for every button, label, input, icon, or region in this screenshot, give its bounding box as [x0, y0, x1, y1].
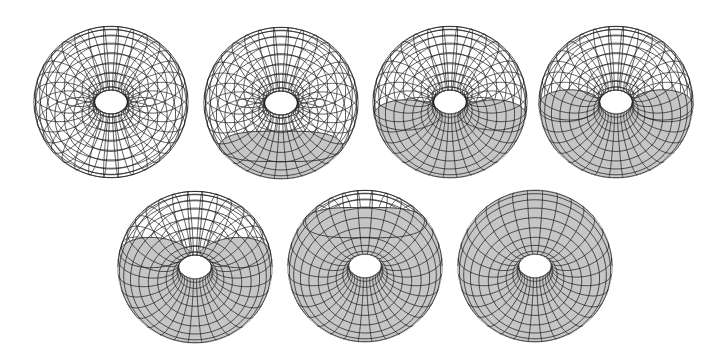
torus-panel — [531, 19, 701, 185]
torus-panel — [365, 19, 535, 185]
torus-panel — [196, 20, 366, 186]
torus-panel — [26, 19, 196, 185]
torus-panel — [280, 183, 450, 349]
torus-panel — [110, 184, 280, 350]
torus-panel — [450, 183, 620, 349]
torus-filling-sequence — [0, 0, 728, 360]
